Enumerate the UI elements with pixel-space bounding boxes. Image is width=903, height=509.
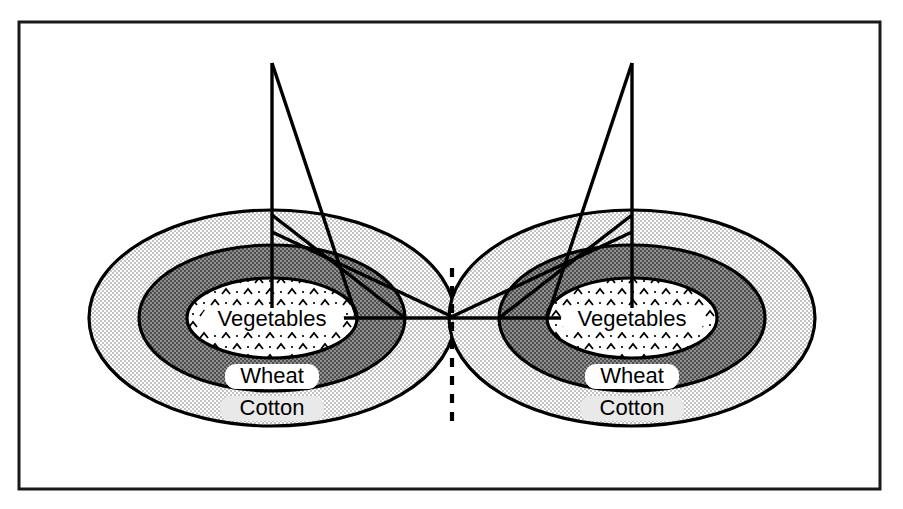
left-cotton-label: Cotton (240, 395, 305, 420)
figure-root: Vegetables Wheat Cotton Vegetables Wheat… (0, 0, 903, 509)
left-wheat-label: Wheat (240, 363, 304, 388)
land-use-diagram: Vegetables Wheat Cotton Vegetables Wheat… (0, 0, 903, 509)
right-cotton-label: Cotton (600, 395, 665, 420)
right-wheat-label: Wheat (600, 363, 664, 388)
left-vegetables-label: Vegetables (218, 306, 327, 331)
right-vegetables-label: Vegetables (578, 306, 687, 331)
